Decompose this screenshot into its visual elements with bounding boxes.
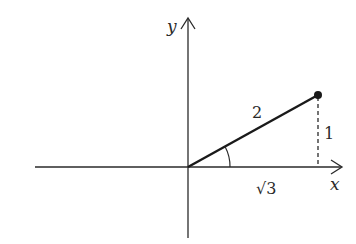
y-axis <box>181 18 195 238</box>
endpoint-dot <box>314 91 322 99</box>
angle-arc <box>225 147 230 168</box>
hypotenuse-segment <box>188 95 318 167</box>
diagram-canvas: y x 2 1 √3 <box>0 0 356 244</box>
